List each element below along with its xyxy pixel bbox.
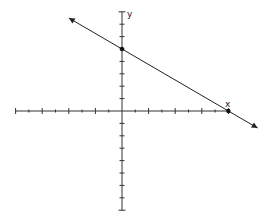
data-point [226,109,230,113]
y-axis-label: y [127,9,133,19]
coordinate-plane: x y [0,0,265,224]
line-series [69,18,258,128]
x-axis-label: x [225,99,231,109]
data-point [120,47,124,51]
